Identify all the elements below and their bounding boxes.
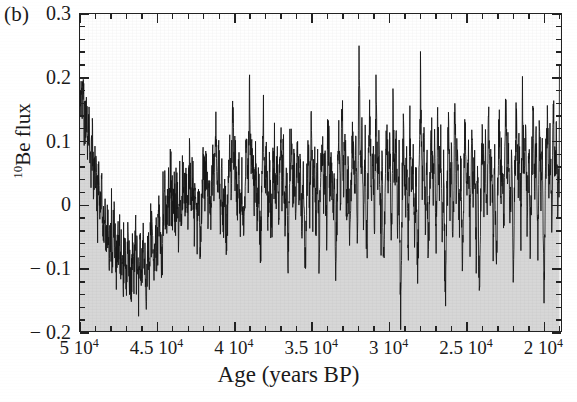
- axis-tick: [80, 179, 85, 180]
- x-tick-exponent: 4: [402, 336, 408, 350]
- axis-tick: [552, 205, 561, 207]
- axis-tick: [80, 230, 85, 231]
- axis-tick: [80, 256, 85, 257]
- axis-tick: [327, 14, 328, 19]
- axis-tick: [342, 14, 343, 19]
- axis-tick: [80, 103, 85, 104]
- axis-tick: [556, 39, 561, 40]
- axis-tick: [556, 281, 561, 282]
- x-tick-label: 2.5 104: [439, 336, 493, 359]
- axis-tick: [373, 14, 374, 19]
- axis-tick: [556, 103, 561, 104]
- axis-tick: [95, 326, 96, 331]
- axis-tick: [556, 192, 561, 193]
- axis-tick: [80, 154, 85, 155]
- axis-tick: [110, 14, 111, 19]
- y-tick-label: − 0.1: [30, 257, 71, 280]
- axis-tick: [80, 64, 85, 65]
- axis-tick: [482, 326, 483, 331]
- axis-tick: [556, 230, 561, 231]
- axis-tick: [556, 294, 561, 295]
- axis-tick: [556, 115, 561, 116]
- axis-tick: [157, 322, 159, 331]
- axis-tick: [126, 326, 127, 331]
- axis-tick: [528, 14, 529, 19]
- axis-tick: [80, 166, 85, 167]
- axis-tick: [157, 14, 159, 23]
- axis-tick: [552, 77, 561, 79]
- axis-tick: [556, 64, 561, 65]
- axis-tick: [311, 14, 313, 23]
- axis-tick: [556, 217, 561, 218]
- x-tick-exponent: 4: [247, 336, 253, 350]
- axis-tick: [466, 322, 468, 331]
- figure-panel-b: (b) 10Be flux 0.30.20.10− 0.1− 0.2 5 104…: [0, 0, 577, 402]
- axis-tick: [80, 243, 85, 244]
- y-tick-label: 0: [61, 193, 71, 216]
- axis-tick: [544, 14, 546, 23]
- axis-tick: [80, 26, 85, 27]
- y-axis-tick-labels: 0.30.20.10− 0.1− 0.2: [0, 13, 79, 332]
- axis-tick: [552, 268, 561, 270]
- data-series-10be-flux: [80, 14, 561, 331]
- axis-tick: [80, 281, 85, 282]
- axis-tick: [188, 326, 189, 331]
- axis-tick: [126, 14, 127, 19]
- axis-tick: [544, 322, 546, 331]
- axis-tick: [556, 166, 561, 167]
- axis-tick: [203, 326, 204, 331]
- axis-tick: [528, 326, 529, 331]
- axis-tick: [513, 326, 514, 331]
- axis-tick: [265, 326, 266, 331]
- axis-tick: [556, 26, 561, 27]
- axis-tick: [280, 14, 281, 19]
- axis-tick: [95, 14, 96, 19]
- axis-tick: [80, 268, 89, 270]
- x-tick-exponent: 4: [557, 336, 563, 350]
- y-tick-label: 0.1: [46, 129, 71, 152]
- axis-tick: [497, 326, 498, 331]
- axis-tick: [80, 13, 89, 15]
- axis-tick: [296, 14, 297, 19]
- axis-tick: [80, 39, 85, 40]
- axis-tick: [373, 326, 374, 331]
- axis-tick: [188, 14, 189, 19]
- axis-tick: [80, 128, 85, 129]
- axis-tick: [80, 205, 89, 207]
- axis-tick: [203, 14, 204, 19]
- plot-area: [79, 13, 562, 332]
- axis-tick: [172, 14, 173, 19]
- axis-tick: [556, 90, 561, 91]
- axis-tick: [80, 319, 85, 320]
- axis-tick: [80, 307, 85, 308]
- axis-tick: [249, 14, 250, 19]
- axis-tick: [172, 326, 173, 331]
- axis-tick: [265, 14, 266, 19]
- axis-tick: [420, 14, 421, 19]
- axis-tick: [141, 14, 142, 19]
- axis-tick: [556, 154, 561, 155]
- axis-tick: [451, 14, 452, 19]
- axis-tick: [141, 326, 142, 331]
- x-tick-label: 4 104: [214, 336, 253, 359]
- axis-tick: [389, 322, 391, 331]
- axis-tick: [358, 14, 359, 19]
- axis-tick: [327, 326, 328, 331]
- axis-tick: [404, 14, 405, 19]
- axis-tick: [219, 326, 220, 331]
- axis-tick: [404, 326, 405, 331]
- axis-tick: [234, 322, 236, 331]
- axis-tick: [80, 294, 85, 295]
- axis-tick: [249, 326, 250, 331]
- axis-tick: [80, 192, 85, 193]
- x-tick-label: 2 104: [524, 336, 563, 359]
- axis-tick: [80, 141, 89, 143]
- axis-tick: [296, 326, 297, 331]
- y-tick-label: 0.3: [46, 2, 71, 25]
- axis-tick: [80, 77, 89, 79]
- y-tick-label: 0.2: [46, 65, 71, 88]
- axis-tick: [280, 326, 281, 331]
- axis-tick: [556, 128, 561, 129]
- x-axis-title: Age (years BP): [0, 362, 577, 388]
- axis-tick: [556, 243, 561, 244]
